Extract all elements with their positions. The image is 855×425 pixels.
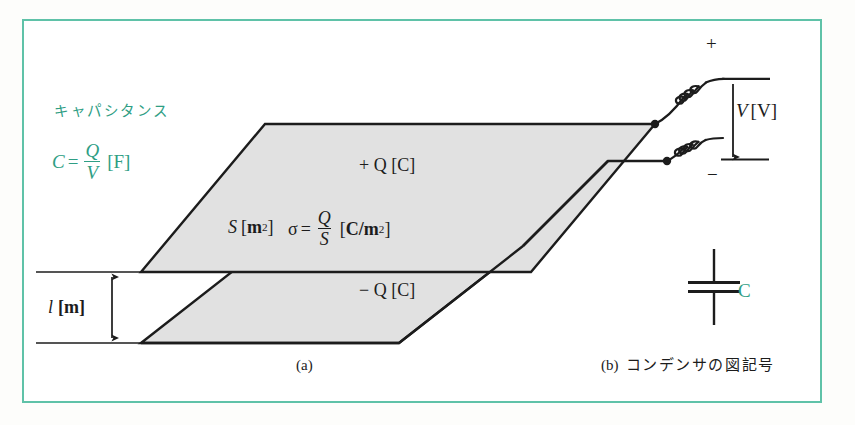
voltage-label: V [V]: [736, 99, 777, 120]
lower-terminal-node: [663, 157, 671, 165]
voltage-symbol: V: [736, 101, 748, 120]
surface-density-symbol: σ: [288, 220, 298, 238]
lower-lead-wire: [663, 138, 723, 165]
caption-panel-b-mark: (b): [601, 357, 619, 373]
plate-area-symbol: S: [228, 218, 237, 236]
capacitor-schematic-symbol: [688, 249, 740, 325]
negative-terminal-label: −: [707, 165, 718, 184]
top-plate-charge-label: + Q [C]: [359, 156, 415, 174]
plate-area-unit-close: ]: [268, 218, 274, 236]
upper-lead-wire: [651, 79, 724, 128]
capacitance-formula-equals: =: [68, 152, 79, 171]
gap-distance-unit: [m]: [58, 298, 85, 316]
plate-area-label: S [ m 2 ]: [228, 216, 274, 236]
surface-density-unit-close: ]: [384, 220, 390, 238]
caption-panel-b: (b)コンデンサの図記号: [601, 358, 775, 373]
capacitance-japanese-label: キャパシタンス: [54, 104, 170, 119]
upper-lead-segment-2: [706, 79, 724, 83]
bottom-plate-charge-label: − Q [C]: [359, 281, 415, 299]
surface-density-fraction: Q S: [316, 209, 333, 248]
capacitance-formula-fraction: Q V: [83, 141, 101, 182]
lower-lead-segment-2: [706, 138, 723, 140]
surface-charge-density-label: σ = Q S [ C/m 2 ]: [288, 209, 390, 248]
capacitance-formula-lhs: C: [52, 152, 65, 171]
positive-terminal-label: +: [706, 34, 717, 53]
gap-distance-symbol: l: [48, 298, 53, 316]
top-plate: [141, 124, 655, 272]
voltage-unit: [V]: [751, 101, 777, 120]
capacitance-formula-unit: [F]: [107, 152, 130, 171]
upper-lead-segment-1: [655, 97, 684, 124]
surface-density-equals: =: [301, 220, 311, 238]
figure-root: キャパシタンス C = Q V [F] S [ m 2 ] σ = Q S: [0, 0, 855, 425]
capacitance-formula: C = Q V [F]: [52, 141, 130, 182]
surface-density-numerator: Q: [316, 209, 333, 228]
caption-panel-b-text: コンデンサの図記号: [626, 356, 775, 374]
capacitor-symbol-label: C: [738, 281, 751, 300]
plate-area-unit-base: m: [247, 218, 262, 236]
gap-distance-label: l [m]: [48, 296, 85, 316]
top-plate-surface: [141, 124, 655, 272]
caption-panel-a: (a): [296, 358, 313, 373]
capacitance-formula-denominator: V: [84, 161, 100, 182]
capacitance-formula-numerator: Q: [83, 141, 101, 161]
surface-density-denominator: S: [318, 228, 331, 248]
surface-density-unit-base: C/m: [346, 220, 379, 238]
upper-terminal-node: [651, 120, 659, 128]
